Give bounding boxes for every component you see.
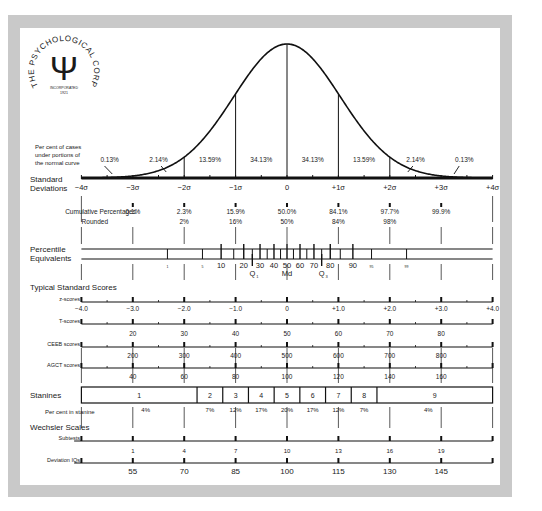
scale-value: 1 bbox=[131, 448, 135, 454]
stanine-percent: 4% bbox=[424, 407, 433, 413]
area-percent-label: 13.59% bbox=[353, 156, 375, 163]
psi-logo-icon: Ψ bbox=[50, 49, 78, 87]
scale-value: +1.0 bbox=[332, 305, 345, 312]
area-percent-label: 34.13% bbox=[250, 156, 272, 163]
scale-value: 800 bbox=[436, 352, 447, 359]
per-cent-stanine-label: Per cent in stanine bbox=[45, 409, 95, 415]
scale-major-tick bbox=[183, 297, 185, 302]
scale-major-tick bbox=[389, 436, 391, 441]
scale-value: −4.0 bbox=[75, 305, 88, 312]
cumulative-marker bbox=[337, 203, 339, 207]
scale-major-tick bbox=[235, 319, 237, 324]
percentile-value: 95 bbox=[370, 265, 374, 269]
cumulative-value: 15.9% bbox=[226, 208, 245, 215]
stanine-percent: 12% bbox=[332, 407, 345, 413]
scale-value: 400 bbox=[230, 352, 241, 359]
sigma-label: +1σ bbox=[332, 183, 346, 192]
cumulative-marker bbox=[286, 203, 288, 207]
stanines-label: Stanines bbox=[30, 391, 61, 400]
standard-deviations-label: Standard bbox=[30, 175, 62, 184]
rounded-label: Rounded bbox=[82, 218, 109, 225]
scale-value: 700 bbox=[384, 352, 395, 359]
scale-major-tick bbox=[286, 436, 288, 441]
scale-major-tick bbox=[492, 297, 494, 302]
stanine-percent: 12% bbox=[230, 407, 243, 413]
scale-major-tick bbox=[286, 297, 288, 302]
percentile-value: 90 bbox=[349, 261, 357, 270]
pointer-line bbox=[454, 166, 459, 174]
stanine-percent: 17% bbox=[307, 407, 320, 413]
scale-value: 10 bbox=[284, 448, 291, 454]
area-percent-label: 0.13% bbox=[100, 156, 119, 163]
stanine-number: 2 bbox=[208, 392, 212, 399]
scale-value: 100 bbox=[282, 373, 293, 380]
percentile-value: 70 bbox=[310, 261, 318, 270]
scale-major-tick bbox=[80, 436, 82, 441]
stanine-number: 4 bbox=[259, 392, 263, 399]
sigma-label: −4σ bbox=[75, 183, 89, 192]
scale-value: 115 bbox=[332, 467, 345, 476]
area-percent-label: 13.59% bbox=[199, 156, 221, 163]
scale-major-tick bbox=[132, 297, 134, 302]
scale-major-tick bbox=[132, 458, 134, 463]
typical-scores-heading: Typical Standard Scores bbox=[30, 283, 117, 292]
scale-value: 30 bbox=[181, 330, 189, 337]
percentile-value: 10 bbox=[217, 261, 225, 270]
stanine-number: 1 bbox=[137, 392, 141, 399]
scale-value: 85 bbox=[231, 467, 240, 476]
area-percent-label: 2.14% bbox=[149, 156, 168, 163]
per-cent-cases-label: the normal curve bbox=[35, 160, 80, 166]
scale-value: 300 bbox=[179, 352, 190, 359]
scale-major-tick bbox=[132, 342, 134, 347]
scale-major-tick bbox=[132, 319, 134, 324]
scale-major-tick bbox=[286, 458, 288, 463]
stanine-number: 5 bbox=[285, 392, 289, 399]
scale-value: 80 bbox=[438, 330, 446, 337]
sigma-label: +3σ bbox=[435, 183, 449, 192]
scale-major-tick bbox=[235, 363, 237, 368]
percentile-value: 5 bbox=[201, 265, 203, 269]
cumulative-marker bbox=[389, 203, 391, 207]
percentile-value: 30 bbox=[256, 261, 264, 270]
scale-major-tick bbox=[492, 363, 494, 368]
stanine-percent: 7% bbox=[206, 407, 215, 413]
scale-major-tick bbox=[235, 342, 237, 347]
area-percent-label: 0.13% bbox=[455, 156, 474, 163]
scale-major-tick bbox=[440, 458, 442, 463]
scale-major-tick bbox=[337, 342, 339, 347]
scale-major-tick bbox=[183, 436, 185, 441]
scale-major-tick bbox=[492, 458, 494, 463]
scale-major-tick bbox=[286, 319, 288, 324]
stanine-percent: 7% bbox=[360, 407, 369, 413]
logo-incorporated: INCORPORATED bbox=[50, 86, 78, 90]
scale-major-tick bbox=[440, 342, 442, 347]
stanine-number: 7 bbox=[336, 392, 340, 399]
scale-major-tick bbox=[337, 297, 339, 302]
scale-major-tick bbox=[337, 363, 339, 368]
scale-major-tick bbox=[389, 363, 391, 368]
stanine-percent: 4% bbox=[141, 407, 150, 413]
scale-major-tick bbox=[132, 436, 134, 441]
scale-value: 140 bbox=[384, 373, 395, 380]
deviation_iqs-label: Deviation IQs bbox=[47, 457, 80, 463]
rounded-value: 84% bbox=[332, 218, 345, 225]
rounded-value: 2% bbox=[179, 218, 189, 225]
scale-major-tick bbox=[337, 458, 339, 463]
cumulative-value: 99.9% bbox=[432, 208, 451, 215]
cumulative-marker bbox=[183, 203, 185, 207]
scale-major-tick bbox=[440, 363, 442, 368]
scale-value: 16 bbox=[386, 448, 393, 454]
q1-label: Q bbox=[249, 269, 255, 278]
sigma-label: +4σ bbox=[486, 183, 500, 192]
percentile-label: Percentile bbox=[30, 245, 66, 254]
area-percent-label: 34.13% bbox=[302, 156, 324, 163]
scale-major-tick bbox=[80, 342, 82, 347]
ceeb_scores-label: CEEB scores bbox=[47, 341, 80, 347]
scale-value: 500 bbox=[282, 352, 293, 359]
scale-major-tick bbox=[80, 297, 82, 302]
scale-major-tick bbox=[389, 319, 391, 324]
subtests-label: Subtests bbox=[59, 435, 81, 441]
pointer-line bbox=[105, 166, 113, 174]
scale-value: 0 bbox=[285, 305, 289, 312]
scale-value: 50 bbox=[283, 330, 291, 337]
